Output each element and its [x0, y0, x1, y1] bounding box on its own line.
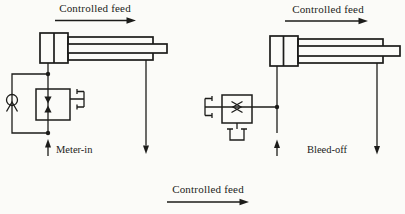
- bottom-feed-caption: Controlled feed: [167, 183, 249, 206]
- controlled-feed-label-bottom: Controlled feed: [172, 183, 244, 195]
- arrow-head-icon: [374, 146, 380, 155]
- supply-arrow-right: [274, 140, 280, 157]
- arrow-head-icon: [127, 17, 137, 23]
- cylinder-left: [40, 33, 167, 63]
- arrow-head-icon: [240, 199, 250, 205]
- valve-body: [36, 89, 70, 120]
- arrow-head-icon: [359, 18, 369, 24]
- piston-rod: [68, 44, 167, 53]
- feed-direction-arrow-bottom: [167, 199, 249, 205]
- adjuster-bracket-icon: [70, 89, 84, 110]
- diagram-canvas: Controlled feed: [0, 0, 405, 214]
- meter-in-label: Meter-in: [56, 144, 93, 155]
- junction-dot: [46, 131, 50, 135]
- cylinder-right: [270, 36, 400, 66]
- bleed-off-circuit: Controlled feed Bleed-of: [205, 3, 400, 157]
- hydraulic-circuits-diagram: Controlled feed: [0, 0, 405, 214]
- rod-end-line-right: [374, 63, 380, 155]
- bypass-line: [12, 74, 48, 133]
- controlled-feed-label-left: Controlled feed: [59, 2, 131, 14]
- piston-rod: [298, 46, 400, 56]
- bleed-off-label: Bleed-off: [307, 144, 348, 155]
- flow-control-valve-icon: [205, 95, 277, 140]
- feed-direction-arrow-right: [285, 18, 368, 24]
- arrow-head-icon: [274, 140, 280, 149]
- throttle-arrow-down: [44, 97, 51, 104]
- check-valve-branch: [7, 74, 49, 133]
- controlled-feed-label-right: Controlled feed: [292, 3, 364, 15]
- throttle-arrow-up: [44, 106, 51, 113]
- feed-direction-arrow-left: [55, 17, 136, 23]
- drain-bracket-icon: [227, 123, 247, 140]
- supply-arrow-left: [45, 139, 51, 156]
- rod-end-line-left: [143, 60, 149, 154]
- arrow-head-icon: [45, 139, 51, 148]
- flow-control-valve-icon: [36, 89, 84, 120]
- meter-in-circuit: Controlled feed: [7, 2, 168, 156]
- arrow-head-icon: [143, 146, 149, 155]
